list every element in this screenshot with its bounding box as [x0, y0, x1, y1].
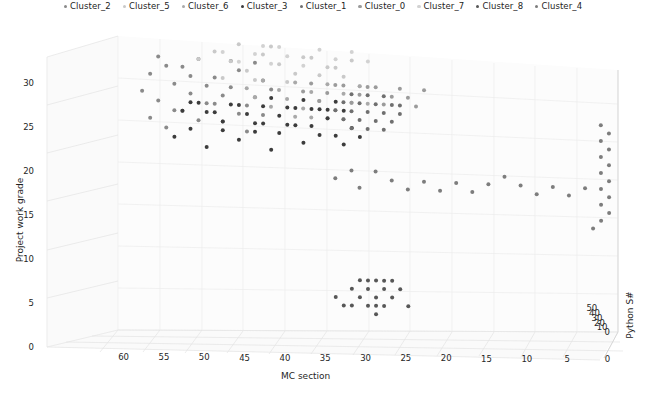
scatter-point	[374, 169, 378, 173]
scatter-point	[398, 87, 402, 91]
scatter-point	[221, 76, 225, 80]
x-tick-label: 60	[113, 352, 135, 362]
scatter-point	[205, 101, 209, 105]
y-tick-label: 30	[8, 78, 34, 88]
scatter-point	[366, 110, 370, 114]
scatter-point	[583, 186, 587, 190]
scatter-point	[486, 182, 490, 186]
scatter-point	[366, 59, 370, 63]
scatter-point	[309, 90, 313, 94]
scatter-point	[180, 65, 184, 69]
scatter-point	[599, 139, 603, 143]
scatter-point	[358, 186, 362, 190]
scatter-point	[382, 111, 386, 115]
scatter-point	[229, 59, 233, 63]
scatter-point	[148, 116, 152, 120]
scatter-point	[390, 179, 394, 183]
scatter-point	[285, 123, 289, 127]
series-cluster_2	[140, 54, 273, 133]
scatter-point	[253, 61, 257, 65]
scatter-point	[269, 148, 273, 152]
scatter-point	[438, 189, 442, 193]
scatter-point	[245, 103, 249, 107]
scatter-point	[333, 108, 337, 112]
scatter-point	[164, 125, 168, 129]
scatter-point	[334, 134, 338, 138]
x-tick-label: 20	[435, 353, 457, 363]
scatter-point	[342, 92, 346, 96]
scatter-point	[326, 116, 330, 120]
scatter-point	[309, 116, 313, 120]
scatter-point	[350, 50, 354, 54]
scatter-point	[325, 91, 329, 95]
scatter-point	[237, 138, 241, 142]
series-cluster_0	[301, 81, 426, 108]
scatter-point	[333, 83, 337, 87]
scatter-point	[551, 185, 555, 189]
figure-3d-scatter: Cluster_2Cluster_5Cluster_6Cluster_3Clus…	[0, 0, 646, 394]
scatter-point	[341, 83, 345, 87]
scatter-point	[599, 187, 603, 191]
x-tick-label: 5	[556, 354, 578, 364]
series-cluster_5	[196, 42, 361, 88]
scatter-point	[277, 131, 281, 135]
scatter-point	[334, 100, 338, 104]
scatter-point	[205, 84, 209, 88]
scatter-point	[599, 219, 603, 223]
scatter-point	[366, 102, 370, 106]
scatter-point	[350, 126, 354, 130]
x-tick-label: 15	[476, 354, 498, 364]
series-cluster_3	[172, 96, 361, 152]
scatter-point	[156, 54, 160, 58]
scatter-point	[269, 96, 273, 100]
scatter-point	[390, 296, 394, 300]
scatter-point	[197, 101, 201, 105]
scatter-point	[213, 76, 217, 80]
scatter-point	[366, 304, 370, 308]
scatter-point	[293, 106, 297, 110]
scatter-point	[205, 145, 209, 149]
scatter-point	[237, 68, 241, 72]
scatter-point	[253, 52, 257, 56]
scatter-point	[197, 118, 201, 122]
scatter-point	[245, 69, 249, 73]
scatter-point	[382, 94, 386, 98]
scatter-point	[188, 74, 192, 78]
scatter-point	[261, 104, 265, 108]
scatter-point	[261, 113, 265, 117]
scatter-point	[237, 112, 241, 116]
scatter-point	[285, 80, 289, 84]
scatter-point	[470, 190, 474, 194]
scatter-point	[382, 304, 386, 308]
scatter-point	[253, 121, 257, 125]
y-tick-label: 10	[8, 254, 34, 264]
scatter-point	[221, 128, 225, 132]
scatter-point	[301, 141, 305, 145]
scatter-point	[317, 99, 321, 103]
scatter-point	[285, 54, 289, 58]
scatter-point	[317, 48, 321, 52]
scatter-point	[374, 295, 378, 299]
scatter-point	[164, 64, 168, 68]
scatter-point	[196, 57, 200, 61]
scatter-point	[172, 108, 176, 112]
scatter-point	[358, 295, 362, 299]
scatter-point	[398, 287, 402, 291]
scatter-point	[213, 110, 217, 114]
scatter-point	[358, 278, 362, 282]
scatter-point	[422, 88, 426, 92]
scatter-point	[301, 90, 305, 94]
scatter-point	[148, 72, 152, 76]
scatter-point	[454, 181, 458, 185]
x-axis-label: MC section	[281, 371, 330, 381]
scatter-point	[599, 155, 603, 159]
x-tick-label: 55	[153, 352, 175, 362]
scatter-point	[253, 78, 257, 82]
x-tick-label: 40	[274, 353, 296, 363]
scatter-point	[237, 42, 241, 46]
scatter-point	[310, 124, 314, 128]
scatter-point	[237, 103, 241, 107]
scatter-point	[342, 75, 346, 79]
x-tick-label: 45	[234, 353, 256, 363]
scatter-point	[326, 108, 330, 112]
